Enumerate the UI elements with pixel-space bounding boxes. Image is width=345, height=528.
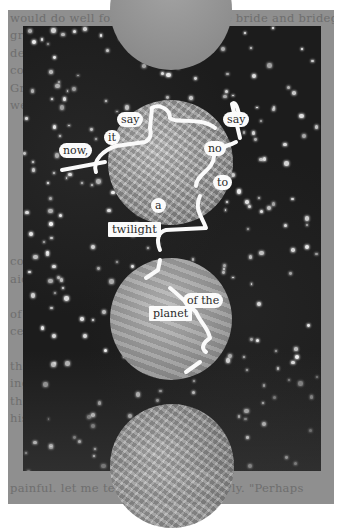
word-now: now, [59,143,92,158]
word-twilight: twilight [108,222,161,237]
word-say-2: say [223,112,249,127]
word-no: no [204,141,226,156]
word-it: it [104,130,120,145]
word-to: to [213,175,232,190]
word-planet: planet [149,306,192,321]
word-a: a [151,198,166,213]
word-say-1: say [117,112,143,127]
